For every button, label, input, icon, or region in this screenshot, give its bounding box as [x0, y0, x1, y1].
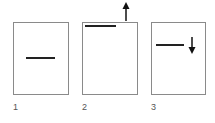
- panel-3: [151, 22, 206, 95]
- panel-2-line: [85, 25, 116, 27]
- panel-3-line: [156, 44, 184, 46]
- panel-1-label: 1: [13, 103, 18, 112]
- arrow-up-icon: [121, 2, 131, 21]
- arrow-down-icon: [187, 37, 197, 54]
- panel-1-line: [26, 57, 55, 59]
- panel-3-label: 3: [151, 103, 156, 112]
- panel-2-label: 2: [82, 103, 87, 112]
- panel-2: [82, 22, 138, 95]
